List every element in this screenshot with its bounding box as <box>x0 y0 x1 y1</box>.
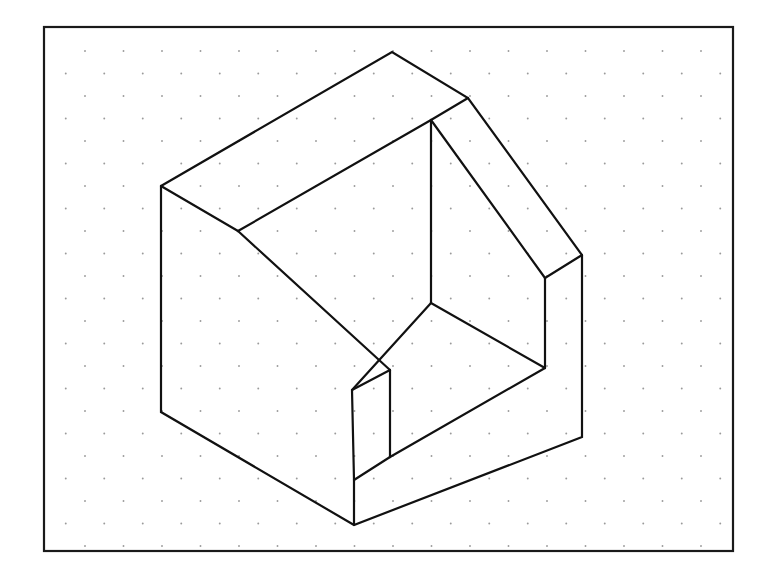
grid-dot <box>277 545 279 547</box>
grid-dot <box>565 73 567 75</box>
grid-dot <box>142 253 144 255</box>
grid-dot <box>315 320 317 322</box>
grid-dot <box>431 410 433 412</box>
grid-dot <box>123 95 125 97</box>
grid-dot <box>565 253 567 255</box>
grid-dot <box>238 365 240 367</box>
grid-dot <box>604 523 606 525</box>
grid-dot <box>585 410 587 412</box>
grid-dot <box>200 500 202 502</box>
grid-dot <box>219 118 221 120</box>
grid-dot <box>180 73 182 75</box>
grid-dot <box>334 73 336 75</box>
grid-dot <box>277 455 279 457</box>
grid-dot <box>469 50 471 52</box>
grid-dot <box>103 298 105 300</box>
grid-dot <box>662 230 664 232</box>
grid-dot <box>257 478 259 480</box>
grid-dot <box>200 365 202 367</box>
grid-dot <box>142 118 144 120</box>
grid-dot <box>142 208 144 210</box>
grid-dot <box>180 208 182 210</box>
grid-dot <box>469 275 471 277</box>
grid-dot <box>296 343 298 345</box>
grid-dot <box>334 253 336 255</box>
grid-dot <box>642 523 644 525</box>
grid-dot <box>277 410 279 412</box>
grid-dot <box>623 50 625 52</box>
grid-dot <box>200 320 202 322</box>
grid-dot <box>508 95 510 97</box>
grid-dot <box>296 478 298 480</box>
grid-dot <box>392 230 394 232</box>
grid-dot <box>604 118 606 120</box>
grid-dot <box>296 163 298 165</box>
grid-dot <box>84 230 86 232</box>
grid-dot <box>411 343 413 345</box>
grid-dot <box>142 388 144 390</box>
grid-dot <box>469 545 471 547</box>
grid-dot <box>681 343 683 345</box>
grid-dot <box>219 298 221 300</box>
grid-dot <box>431 455 433 457</box>
grid-dot <box>200 410 202 412</box>
grid-dot <box>103 523 105 525</box>
grid-dot <box>180 298 182 300</box>
grid-dot <box>469 185 471 187</box>
grid-dot <box>662 365 664 367</box>
grid-dot <box>642 298 644 300</box>
grid-dot <box>103 73 105 75</box>
grid-dot <box>585 95 587 97</box>
grid-dot <box>546 50 548 52</box>
grid-dot <box>719 523 721 525</box>
grid-dot <box>392 545 394 547</box>
grid-dot <box>161 95 163 97</box>
grid-dot <box>546 320 548 322</box>
grid-dot <box>508 50 510 52</box>
grid-dot <box>238 545 240 547</box>
grid-dot <box>65 478 67 480</box>
grid-dot <box>469 455 471 457</box>
grid-dot <box>296 388 298 390</box>
grid-dot <box>180 253 182 255</box>
grid-dot <box>411 208 413 210</box>
grid-dot <box>719 433 721 435</box>
grid-dot <box>65 253 67 255</box>
grid-dot <box>296 523 298 525</box>
grid-dot <box>373 208 375 210</box>
grid-dot <box>315 545 317 547</box>
grid-dot <box>334 478 336 480</box>
grid-dot <box>238 320 240 322</box>
grid-dot <box>334 163 336 165</box>
grid-dot <box>488 253 490 255</box>
grid-dot <box>585 275 587 277</box>
grid-dot <box>642 118 644 120</box>
grid-dot <box>431 320 433 322</box>
grid-dot <box>488 298 490 300</box>
grid-dot <box>700 365 702 367</box>
grid-dot <box>488 163 490 165</box>
grid-dot <box>161 500 163 502</box>
grid-dot <box>662 50 664 52</box>
grid-dot <box>527 523 529 525</box>
grid-dot <box>392 500 394 502</box>
grid-dot <box>65 433 67 435</box>
grid-dot <box>84 275 86 277</box>
grid-dot <box>546 545 548 547</box>
grid-dot <box>257 388 259 390</box>
grid-dot <box>277 185 279 187</box>
grid-dot <box>450 163 452 165</box>
grid-dot <box>623 185 625 187</box>
grid-dot <box>469 500 471 502</box>
grid-dot <box>681 208 683 210</box>
grid-dot <box>469 365 471 367</box>
grid-dot <box>450 478 452 480</box>
grid-dot <box>200 230 202 232</box>
grid-dot <box>123 455 125 457</box>
grid-dot <box>719 118 721 120</box>
grid-dot <box>219 73 221 75</box>
grid-dot <box>623 545 625 547</box>
grid-dot <box>431 95 433 97</box>
grid-dot <box>84 410 86 412</box>
grid-dot <box>585 230 587 232</box>
